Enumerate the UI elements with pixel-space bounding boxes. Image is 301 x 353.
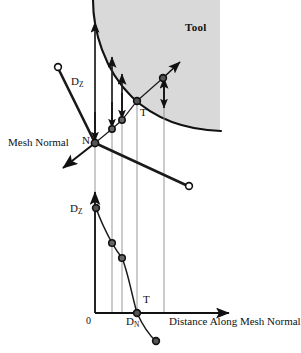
depth-z-label-plot: DZ — [70, 203, 83, 214]
plot-point-1 — [109, 240, 116, 247]
mesh-edge-right — [95, 143, 188, 186]
tool-label: Tool — [185, 22, 207, 33]
d-n-subscript: N — [134, 320, 139, 329]
node-marker-n — [91, 139, 98, 146]
node-marker-endpoint-left — [55, 64, 62, 71]
d-n-letter: D — [126, 315, 134, 327]
mesh-normal-label: Mesh Normal — [8, 137, 69, 148]
node-marker-mid-2 — [119, 117, 125, 123]
figure-canvas — [0, 0, 301, 353]
node-marker-outer — [160, 75, 167, 82]
node-n-label: N — [82, 135, 90, 146]
plot-point-4 — [153, 338, 160, 345]
figure-root: Tool DZ Mesh Normal N T DZ 0 DN T Distan… — [0, 0, 301, 353]
node-marker-endpoint-right — [186, 183, 193, 190]
plot-point-0 — [93, 205, 100, 212]
depth-z-label-upper: DZ — [71, 76, 84, 87]
plot-axes-group — [95, 192, 229, 313]
plot-x-axis-title: Distance Along Mesh Normal — [169, 316, 301, 327]
node-t-label-plot: T — [143, 294, 150, 305]
plot-origin-label: 0 — [86, 316, 91, 326]
plot-y-axis-subscript: Z — [78, 207, 83, 216]
node-marker-t — [134, 98, 141, 105]
depth-z-letter: D — [71, 75, 79, 87]
node-marker-mid-1 — [109, 126, 115, 132]
depth-z-subscript: Z — [79, 80, 84, 89]
d-n-label: DN — [126, 316, 139, 327]
plot-point-2 — [119, 255, 126, 262]
node-t-label-upper: T — [140, 107, 147, 118]
plot-y-axis-letter: D — [70, 202, 78, 214]
